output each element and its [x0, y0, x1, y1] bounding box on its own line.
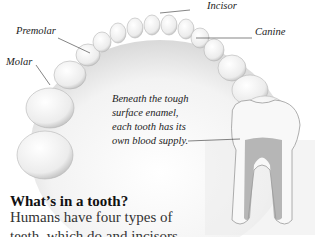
caption-line: each tooth has its [112, 120, 222, 134]
caption-line: Beneath the tough [112, 92, 222, 106]
caption-line: surface enamel, [112, 106, 222, 120]
body-line: teeth, which do and incisors [10, 227, 178, 237]
label-canine: Canine [255, 26, 285, 37]
caption-line: own blood supply. [112, 134, 222, 148]
label-molar: Molar [6, 56, 32, 67]
blood-supply-caption: Beneath the tough surface enamel, each t… [112, 92, 222, 148]
body-line: Humans have four types of [10, 208, 178, 227]
label-incisor: Incisor [207, 0, 237, 11]
body-text: Humans have four types of teeth, which d… [10, 208, 178, 237]
label-premolar: Premolar [16, 25, 56, 36]
